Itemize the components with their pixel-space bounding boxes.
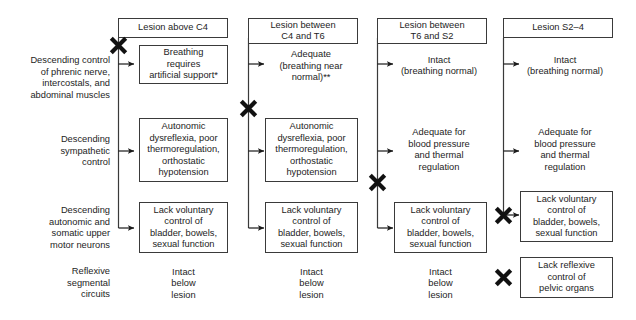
- column-header-s2-4: Lesion S2–4: [503, 18, 613, 38]
- cell-t6-s2-reflexive: Intact below lesion: [394, 264, 487, 304]
- cell-above-c4-reflexive: Intact below lesion: [139, 264, 228, 304]
- row-label-autonomic-somatic: Descending autonomic and somatic upper m…: [6, 205, 110, 251]
- block-x-mark-s2-4-reflexive: [494, 268, 513, 287]
- spinal-lesion-diagram: Descending control of phrenic nerve, int…: [0, 0, 636, 320]
- block-x-mark-above-c4-phrenic: [109, 36, 128, 55]
- cell-above-c4-breathing: Breathing requires artificial support*: [139, 45, 228, 84]
- column-header-above-c4: Lesion above C4: [118, 18, 228, 38]
- block-x-mark-s2-4-autonomic-somatic: [494, 206, 513, 225]
- cell-s2-4-reflexive: Lack reflexive control of pelvic organs: [520, 257, 613, 298]
- row-label-sympathetic: Descending sympathetic control: [6, 134, 110, 169]
- cell-c4-t6-breathing: Adequate (breathing near normal)**: [264, 47, 358, 86]
- row-label-phrenic: Descending control of phrenic nerve, int…: [6, 55, 110, 101]
- cell-c4-t6-sympathetic: Autonomic dysreflexia, poor thermoregula…: [265, 118, 358, 182]
- cell-s2-4-voluntary: Lack voluntary control of bladder, bowel…: [520, 191, 613, 242]
- column-header-t6-s2: Lesion between T6 and S2: [377, 18, 487, 44]
- cell-above-c4-sympathetic: Autonomic dysreflexia, poor thermoregula…: [139, 118, 228, 182]
- block-x-mark-c4-t6-sympathetic: [239, 99, 258, 118]
- cell-c4-t6-voluntary: Lack voluntary control of bladder, bowel…: [265, 202, 358, 253]
- column-header-c4-t6: Lesion between C4 and T6: [248, 18, 358, 44]
- cell-t6-s2-voluntary: Lack voluntary control of bladder, bowel…: [394, 202, 487, 253]
- cell-t6-s2-sympathetic: Adequate for blood pressure and thermal …: [391, 124, 487, 176]
- cell-above-c4-voluntary: Lack voluntary control of bladder, bowel…: [139, 202, 228, 253]
- block-x-mark-t6-s2-autonomic-somatic: [368, 173, 387, 192]
- cell-s2-4-breathing: Intact (breathing normal): [517, 52, 613, 80]
- row-label-reflexive: Reflexive segmental circuits: [6, 266, 110, 301]
- cell-s2-4-sympathetic: Adequate for blood pressure and thermal …: [517, 124, 613, 176]
- cell-t6-s2-breathing: Intact (breathing normal): [391, 52, 487, 80]
- cell-c4-t6-reflexive: Intact below lesion: [265, 264, 358, 304]
